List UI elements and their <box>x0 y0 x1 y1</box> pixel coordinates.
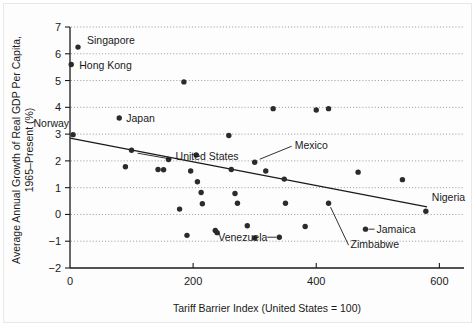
x-ticklabel-400: 400 <box>307 275 325 287</box>
data-point-zimbabwe <box>326 200 331 205</box>
data-point-20 <box>195 179 200 184</box>
data-point-japan <box>117 115 122 120</box>
x-ticklabel-600: 600 <box>430 275 448 287</box>
data-point-14 <box>123 164 128 169</box>
data-point-32 <box>263 168 268 173</box>
data-point-hong-kong <box>69 62 74 67</box>
data-point-nigeria <box>423 209 428 214</box>
point-label-zimbabwe: Zimbabwe <box>351 238 400 250</box>
data-point-12 <box>314 107 319 112</box>
data-point-jamaica <box>363 226 368 231</box>
data-point-15 <box>166 157 171 162</box>
data-point-18 <box>188 168 193 173</box>
data-point-16 <box>155 167 160 172</box>
data-point-10 <box>181 79 186 84</box>
data-point-25 <box>177 206 182 211</box>
data-point-group <box>69 44 429 240</box>
point-label-jamaica: Jamaica <box>377 223 416 235</box>
data-point-13 <box>326 106 331 111</box>
figure-container: −2−101234567 0200400600 SingaporeHong Ko… <box>0 0 475 326</box>
x-ticklabel-200: 200 <box>184 275 202 287</box>
data-point-28 <box>232 191 237 196</box>
data-point-22 <box>200 201 205 206</box>
point-label-venezuela: Venezuela <box>218 231 267 243</box>
data-point-27 <box>229 167 234 172</box>
point-label-japan: Japan <box>126 112 155 124</box>
x-tick-group <box>193 263 439 268</box>
data-point-30 <box>245 223 250 228</box>
y-ticklabel--2: −2 <box>48 262 61 274</box>
x-ticklabel-group: 0200400600 <box>67 275 449 287</box>
y-axis-title-line2: 1965–Present (%) <box>23 108 35 193</box>
y-ticklabel-2: 2 <box>55 155 61 167</box>
point-label-mexico: Mexico <box>295 139 328 151</box>
data-point-venezuela <box>277 235 282 240</box>
leader-line-zimbabwe <box>331 207 349 245</box>
point-label-singapore: Singapore <box>87 34 135 46</box>
data-point-11 <box>270 106 275 111</box>
y-ticklabel-5: 5 <box>55 75 61 87</box>
y-ticklabel-0: 0 <box>55 208 61 220</box>
point-label-group: SingaporeHong KongNorwayJapanUnited Stat… <box>33 34 465 250</box>
point-label-hong-kong: Hong Kong <box>79 59 132 71</box>
data-point-36 <box>355 169 360 174</box>
scatter-plot: −2−101234567 0200400600 SingaporeHong Ko… <box>0 0 475 326</box>
data-point-37 <box>400 177 405 182</box>
data-point-norway <box>70 132 75 137</box>
y-ticklabel-3: 3 <box>55 128 61 140</box>
data-point-united-states <box>129 147 134 152</box>
data-point-38 <box>226 133 231 138</box>
y-ticklabel-7: 7 <box>55 21 61 33</box>
data-point-34 <box>283 200 288 205</box>
point-label-united-states: United States <box>176 150 239 162</box>
y-ticklabel-4: 4 <box>55 101 61 113</box>
y-axis-title-line1: Average Annual Growth of Real GDP Per Ca… <box>10 36 22 264</box>
leader-line-mexico <box>260 146 292 159</box>
y-ticklabel-group: −2−101234567 <box>48 21 61 274</box>
data-point-33 <box>282 176 287 181</box>
point-label-norway: Norway <box>33 117 69 129</box>
y-ticklabel--1: −1 <box>48 235 61 247</box>
y-ticklabel-1: 1 <box>55 182 61 194</box>
point-label-nigeria: Nigeria <box>432 191 465 203</box>
data-point-mexico <box>252 160 257 165</box>
trend-line <box>70 138 427 207</box>
y-ticklabel-6: 6 <box>55 48 61 60</box>
x-axis-title: Tariff Barrier Index (United States = 10… <box>173 302 361 314</box>
data-point-26 <box>184 233 189 238</box>
x-ticklabel-0: 0 <box>67 275 73 287</box>
data-point-35 <box>302 224 307 229</box>
data-point-21 <box>198 190 203 195</box>
data-point-17 <box>161 167 166 172</box>
data-point-singapore <box>75 44 80 49</box>
data-point-29 <box>235 200 240 205</box>
